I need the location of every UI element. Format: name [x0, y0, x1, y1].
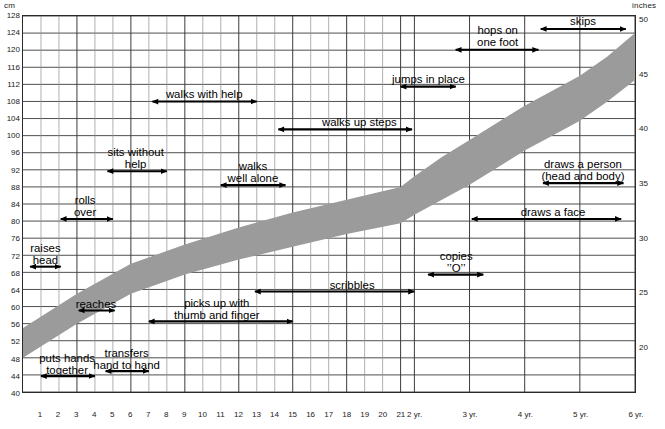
x-tick-19: 19 — [360, 410, 369, 419]
x-tick-6-yr-: 6 yr. — [628, 410, 643, 419]
milestone-label-line: copies — [440, 250, 473, 262]
y-tick-cm-68: 68 — [0, 268, 20, 277]
milestone-label-picks-up-with-thumb-and-finger: picks up withthumb and finger — [174, 297, 260, 321]
x-tick-13: 13 — [252, 410, 261, 419]
milestone-label-line: rolls — [74, 194, 96, 206]
y-tick-inch-30: 30 — [639, 233, 661, 242]
y-tick-cm-40: 40 — [0, 389, 20, 398]
milestone-label-line: head — [30, 254, 60, 266]
x-tick-5-yr-: 5 yr. — [573, 410, 588, 419]
plot-area — [22, 15, 636, 393]
x-tick-2: 2 — [56, 410, 60, 419]
milestone-label-line: puts hands — [39, 352, 95, 364]
milestone-label-line: together — [39, 364, 95, 376]
x-tick-18: 18 — [342, 410, 351, 419]
milestone-label-line: one foot — [477, 36, 518, 48]
x-tick-16: 16 — [306, 410, 315, 419]
milestone-label-sits-without-help: sits withouthelp — [107, 146, 163, 170]
milestone-label-line: walks — [228, 160, 279, 172]
milestone-label-walks-up-steps: walks up steps — [322, 116, 397, 128]
milestone-label-line: scribbles — [330, 279, 375, 291]
y-tick-cm-56: 56 — [0, 320, 20, 329]
milestone-label-line: hand to hand — [93, 359, 160, 371]
milestone-label-walks-with-help: walks with help — [166, 88, 243, 100]
x-tick-6: 6 — [128, 410, 132, 419]
y-tick-cm-128: 128 — [0, 11, 20, 20]
milestone-label-line: well alone — [228, 172, 279, 184]
milestone-label-walks-well-alone: walkswell alone — [228, 160, 279, 184]
y-tick-cm-112: 112 — [0, 79, 20, 88]
x-tick-7: 7 — [146, 410, 150, 419]
milestone-label-line: raises — [30, 242, 60, 254]
milestone-label-line: reaches — [76, 298, 117, 310]
x-tick-3-yr-: 3 yr. — [462, 410, 477, 419]
milestone-label-draws-a-face: draws a face — [521, 206, 586, 218]
x-tick-21: 21 — [396, 410, 405, 419]
y-tick-cm-96: 96 — [0, 148, 20, 157]
milestone-label-puts-hands-together: puts handstogether — [39, 352, 95, 376]
milestone-label-transfers-hand-to-hand: transfershand to hand — [93, 347, 160, 371]
x-tick-9: 9 — [182, 410, 186, 419]
milestone-label-line: sits without — [107, 146, 163, 158]
x-tick-2-yr-: 2 yr. — [407, 410, 422, 419]
milestone-label-hops-on-one-foot: hops onone foot — [477, 24, 518, 48]
y-tick-inch-45: 45 — [639, 69, 661, 78]
y-tick-cm-48: 48 — [0, 354, 20, 363]
milestone-label-line: transfers — [93, 347, 160, 359]
milestone-label-line: skips — [570, 15, 596, 27]
x-tick-5: 5 — [110, 410, 114, 419]
milestone-label-line: thumb and finger — [174, 309, 260, 321]
milestone-label-copies-o: copies’’O’’ — [440, 250, 473, 274]
inches-unit-caption: inches — [632, 1, 656, 10]
x-tick-4: 4 — [92, 410, 96, 419]
x-tick-8: 8 — [164, 410, 168, 419]
milestone-label-line: walks with help — [166, 88, 243, 100]
y-tick-cm-76: 76 — [0, 234, 20, 243]
milestone-label-line: over — [74, 206, 96, 218]
milestone-label-line: hops on — [477, 24, 518, 36]
milestone-label-skips: skips — [570, 15, 596, 27]
cm-unit-caption: cm — [4, 1, 15, 10]
x-tick-15: 15 — [288, 410, 297, 419]
y-tick-inch-40: 40 — [639, 124, 661, 133]
x-tick-4-yr-: 4 yr. — [518, 410, 533, 419]
y-tick-cm-100: 100 — [0, 131, 20, 140]
x-tick-20: 20 — [378, 410, 387, 419]
milestone-label-line: help — [107, 158, 163, 170]
milestone-label-line: draws a person — [541, 158, 624, 170]
y-tick-cm-80: 80 — [0, 217, 20, 226]
y-tick-inch-20: 20 — [639, 342, 661, 351]
y-tick-cm-108: 108 — [0, 96, 20, 105]
y-tick-cm-60: 60 — [0, 303, 20, 312]
x-tick-3: 3 — [74, 410, 78, 419]
y-tick-inch-50: 50 — [639, 15, 661, 24]
growth-milestone-chart: cm inches month of birth 128124120116112… — [0, 0, 665, 429]
y-tick-inch-25: 25 — [639, 288, 661, 297]
milestone-arrows — [23, 16, 635, 392]
milestone-label-line: draws a face — [521, 206, 586, 218]
y-tick-cm-72: 72 — [0, 251, 20, 260]
y-tick-cm-64: 64 — [0, 285, 20, 294]
y-tick-cm-44: 44 — [0, 371, 20, 380]
milestone-label-line: picks up with — [174, 297, 260, 309]
x-tick-11: 11 — [216, 410, 224, 419]
milestone-label-jumps-in-place: jumps in place — [392, 73, 465, 85]
x-tick-17: 17 — [324, 410, 333, 419]
milestone-label-raises-head: raiseshead — [30, 242, 60, 266]
milestone-label-line: ’’O’’ — [440, 262, 473, 274]
y-tick-cm-120: 120 — [0, 45, 20, 54]
y-tick-cm-92: 92 — [0, 165, 20, 174]
y-tick-cm-84: 84 — [0, 200, 20, 209]
milestone-label-rolls-over: rollsover — [74, 194, 96, 218]
y-tick-inch-35: 35 — [639, 178, 661, 187]
x-tick-14: 14 — [270, 410, 279, 419]
milestone-label-line: walks up steps — [322, 116, 397, 128]
milestone-label-reaches: reaches — [76, 298, 117, 310]
x-tick-1: 1 — [38, 410, 42, 419]
y-tick-cm-124: 124 — [0, 28, 20, 37]
y-tick-cm-52: 52 — [0, 337, 20, 346]
x-tick-10: 10 — [198, 410, 207, 419]
milestone-label-scribbles: scribbles — [330, 279, 375, 291]
milestone-label-line: (head and body) — [541, 170, 624, 182]
milestone-label-draws-a-person-head-and-body: draws a person(head and body) — [541, 158, 624, 182]
